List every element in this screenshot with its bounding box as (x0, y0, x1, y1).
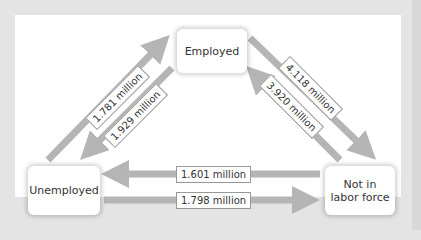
flow-label-nilf-to-unemployed: 1.601 million (176, 166, 251, 183)
node-nilf-label-line1: Not in (344, 178, 377, 191)
node-not-in-labor-force: Not in labor force (325, 166, 395, 215)
node-nilf-label-line2: labor force (330, 191, 389, 204)
node-employed-label: Employed (185, 45, 240, 58)
node-unemployed: Unemployed (28, 166, 100, 215)
node-employed: Employed (177, 29, 247, 73)
flow-label-unemployed-to-nilf: 1.798 million (176, 192, 251, 209)
node-unemployed-label: Unemployed (29, 184, 99, 197)
